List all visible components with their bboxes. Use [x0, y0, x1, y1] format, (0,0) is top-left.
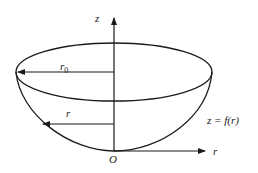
rim-radius-label-sub: 0 — [64, 66, 68, 75]
surface-equation-label: z = f(r) — [206, 114, 239, 127]
origin-label: O — [109, 153, 117, 165]
rim-radius-label: r0 — [60, 60, 68, 75]
bowl-diagram: z r O r0 r z = f(r) — [0, 0, 258, 173]
radius-label: r — [66, 107, 71, 119]
z-axis-label: z — [94, 12, 100, 24]
r-axis-label: r — [213, 145, 218, 157]
